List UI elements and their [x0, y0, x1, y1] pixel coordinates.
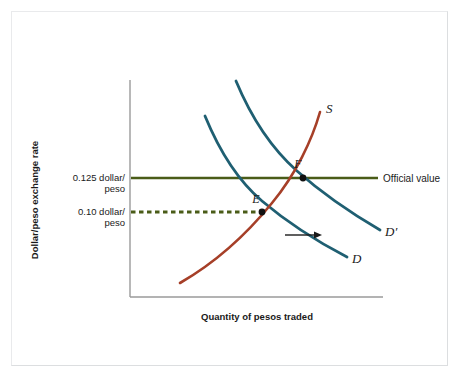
- figure-page: Dollar/peso exchange rate 0.125 dollar/ …: [0, 0, 471, 389]
- equilibrium-point-E-marker: [259, 209, 266, 216]
- y-tick-010-line2: peso: [104, 217, 125, 228]
- supply-curve: [180, 112, 320, 283]
- equilibrium-point-F-marker: [300, 175, 307, 182]
- y-tick-0125-line1: 0.125 dollar/: [73, 172, 126, 183]
- official-value-label: Official value: [383, 173, 441, 184]
- curve-label-demand-original: D: [351, 251, 362, 266]
- y-tick-0125-line2: peso: [104, 183, 125, 194]
- y-tick-label-0125: 0.125 dollar/ peso: [73, 172, 126, 194]
- y-tick-010-line1: 0.10 dollar/: [78, 206, 125, 217]
- y-axis-title: Dollar/peso exchange rate: [29, 141, 40, 259]
- point-label-F: F: [293, 157, 302, 171]
- chart-axes: [130, 80, 383, 297]
- demand-curve-original: [205, 116, 347, 257]
- y-tick-label-010: 0.10 dollar/ peso: [78, 206, 125, 228]
- supply-demand-chart: Dollar/peso exchange rate 0.125 dollar/ …: [0, 0, 471, 389]
- demand-curve-shifted: [236, 81, 380, 230]
- x-axis-title: Quantity of pesos traded: [201, 311, 313, 322]
- point-label-E: E: [251, 192, 260, 206]
- curve-label-demand-shifted: D′: [384, 224, 397, 239]
- curve-label-supply: S: [326, 101, 333, 116]
